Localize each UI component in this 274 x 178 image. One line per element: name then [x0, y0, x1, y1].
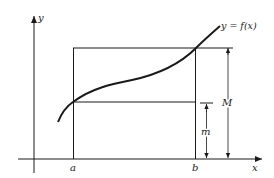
- y-axis-label: y: [37, 12, 44, 23]
- x-axis-label: x: [252, 162, 258, 173]
- b-label: b: [192, 162, 198, 173]
- curve-label: y = f(x): [220, 20, 257, 31]
- a-label: a: [70, 162, 76, 173]
- M-label: M: [221, 97, 233, 108]
- m-label: m: [201, 126, 210, 137]
- diagram-canvas: y x y = f(x) a b M m: [0, 0, 274, 178]
- diagram: y x y = f(x) a b M m: [0, 0, 274, 178]
